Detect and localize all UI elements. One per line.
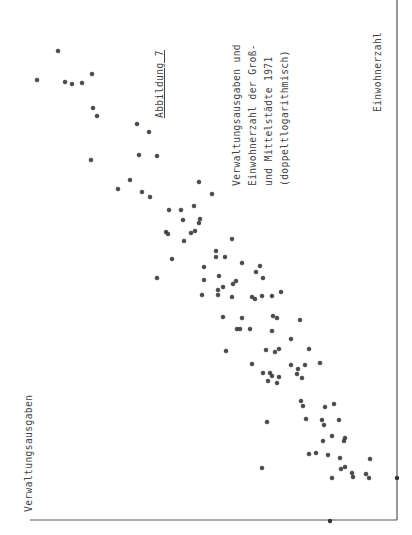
data-point bbox=[314, 451, 318, 455]
data-point bbox=[198, 217, 202, 221]
data-point bbox=[304, 417, 308, 421]
data-point bbox=[275, 381, 279, 385]
data-point bbox=[351, 475, 355, 479]
figure-title-line-1: Verwaltungsausgaben und bbox=[232, 44, 242, 186]
data-point bbox=[90, 72, 94, 76]
data-point bbox=[231, 282, 235, 286]
figure-title-line-4: (doppeltlogarithmisch) bbox=[280, 50, 290, 186]
data-point bbox=[128, 178, 132, 182]
data-point bbox=[216, 288, 220, 292]
data-point bbox=[258, 264, 262, 268]
data-point bbox=[202, 278, 206, 282]
data-point bbox=[307, 452, 311, 456]
axis-markers bbox=[328, 476, 399, 523]
data-point bbox=[261, 371, 265, 375]
data-point bbox=[210, 192, 214, 196]
data-point bbox=[326, 453, 330, 457]
data-point bbox=[230, 295, 234, 299]
data-point bbox=[260, 294, 264, 298]
data-point bbox=[89, 158, 93, 162]
figure-label: Abbildung 7 bbox=[155, 50, 165, 118]
data-point bbox=[181, 218, 185, 222]
data-point bbox=[240, 261, 244, 265]
data-point bbox=[248, 327, 252, 331]
x-axis-label: Einwohnerzahl bbox=[373, 32, 383, 112]
data-point bbox=[332, 402, 336, 406]
data-point bbox=[179, 208, 183, 212]
data-point bbox=[214, 255, 218, 259]
data-point bbox=[147, 130, 151, 134]
data-point bbox=[216, 293, 220, 297]
data-point bbox=[299, 399, 303, 403]
data-point bbox=[166, 232, 170, 236]
data-point bbox=[270, 294, 274, 298]
data-point bbox=[238, 327, 242, 331]
data-point bbox=[155, 154, 159, 158]
data-point bbox=[271, 314, 275, 318]
data-point bbox=[320, 418, 324, 422]
data-point bbox=[295, 372, 299, 376]
data-point bbox=[321, 439, 325, 443]
data-point bbox=[63, 80, 67, 84]
axis-marker bbox=[328, 519, 332, 523]
data-point bbox=[224, 349, 228, 353]
data-point bbox=[95, 114, 99, 118]
data-point bbox=[342, 439, 346, 443]
data-point bbox=[182, 239, 186, 243]
data-point bbox=[318, 361, 322, 365]
data-point bbox=[330, 476, 334, 480]
data-point bbox=[240, 316, 244, 320]
data-point bbox=[250, 295, 254, 299]
data-point bbox=[202, 265, 206, 269]
data-point bbox=[337, 418, 341, 422]
axis-marker bbox=[395, 476, 399, 480]
data-point bbox=[170, 257, 174, 261]
data-point bbox=[261, 276, 265, 280]
data-point bbox=[322, 423, 326, 427]
data-point bbox=[221, 285, 225, 289]
data-point bbox=[70, 82, 74, 86]
data-point bbox=[343, 465, 347, 469]
data-point bbox=[193, 229, 197, 233]
data-point bbox=[56, 49, 60, 53]
data-point bbox=[339, 467, 343, 471]
data-point bbox=[273, 350, 277, 354]
data-point bbox=[300, 376, 304, 380]
data-point bbox=[338, 456, 342, 460]
y-axis-label: Verwaltungsausgaben bbox=[24, 395, 34, 512]
scatter-plot bbox=[0, 0, 412, 535]
data-point bbox=[135, 122, 139, 126]
data-point bbox=[250, 362, 254, 366]
data-point bbox=[289, 337, 293, 341]
data-point bbox=[167, 208, 171, 212]
data-point bbox=[91, 106, 95, 110]
data-point bbox=[137, 153, 141, 157]
figure-title-line-3: und Mittelstädte 1971 bbox=[264, 56, 274, 186]
data-point bbox=[189, 231, 193, 235]
data-point bbox=[266, 379, 270, 383]
data-point bbox=[140, 190, 144, 194]
data-point bbox=[254, 270, 258, 274]
data-point bbox=[330, 434, 334, 438]
data-point bbox=[275, 316, 279, 320]
data-point bbox=[200, 293, 204, 297]
data-point bbox=[221, 315, 225, 319]
data-point bbox=[279, 290, 283, 294]
data-point bbox=[148, 195, 152, 199]
data-point bbox=[298, 318, 302, 322]
data-point bbox=[217, 274, 221, 278]
data-point bbox=[35, 78, 39, 82]
data-point bbox=[289, 363, 293, 367]
data-point bbox=[197, 221, 201, 225]
data-point bbox=[116, 187, 120, 191]
data-point bbox=[364, 472, 368, 476]
data-point bbox=[270, 329, 274, 333]
data-point bbox=[197, 180, 201, 184]
data-point bbox=[234, 279, 238, 283]
data-point bbox=[296, 367, 300, 371]
data-point bbox=[265, 420, 269, 424]
data-point bbox=[307, 347, 311, 351]
data-point bbox=[230, 237, 234, 241]
data-point bbox=[277, 347, 281, 351]
data-point bbox=[303, 363, 307, 367]
